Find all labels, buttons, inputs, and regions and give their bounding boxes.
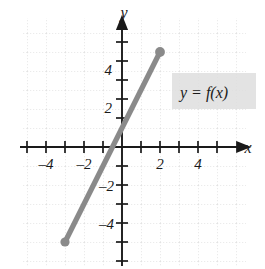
x-tick-label-pos2: 2 xyxy=(156,156,164,172)
x-tick-label-neg4: –4 xyxy=(38,156,55,172)
y-tick-label-neg2: –2 xyxy=(98,178,115,194)
segment-endpoint-upper xyxy=(155,47,165,57)
grid-background xyxy=(22,18,246,266)
function-label: y = f(x) xyxy=(178,84,228,102)
segment-endpoint-lower xyxy=(60,237,69,246)
y-tick-label-neg4: –4 xyxy=(98,216,115,232)
x-tick-label-pos4: 4 xyxy=(194,156,202,172)
y-tick-label-pos4: 4 xyxy=(105,62,113,78)
y-axis-label: y xyxy=(118,4,128,22)
y-tick-label-pos2: 2 xyxy=(105,100,113,116)
graph-figure: –4 –2 2 4 4 2 –2 –4 x y y = f(x) xyxy=(0,0,265,269)
x-axis-label: x xyxy=(243,139,251,156)
coordinate-plane-svg: –4 –2 2 4 4 2 –2 –4 x y y = f(x) xyxy=(0,0,265,269)
x-tick-label-neg2: –2 xyxy=(76,156,93,172)
